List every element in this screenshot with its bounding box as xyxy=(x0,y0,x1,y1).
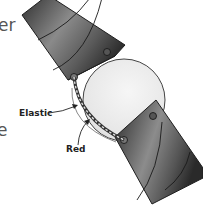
label-rod: Red xyxy=(66,145,85,154)
joint-illustration xyxy=(0,0,203,207)
rivet-icon xyxy=(104,49,111,56)
diagram-canvas: er l e xyxy=(0,0,203,207)
rivet-icon xyxy=(150,113,157,120)
elastic-leader-arrow xyxy=(49,106,76,113)
label-elastic: Elastic xyxy=(19,109,52,118)
